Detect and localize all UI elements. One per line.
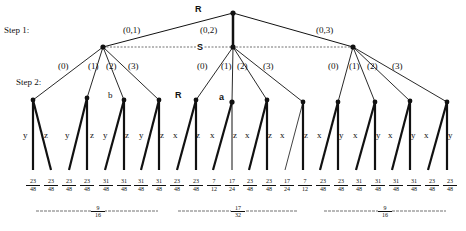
edge-label-mid-2: (2) (237, 62, 248, 71)
action-label: x (388, 131, 393, 140)
payoff-fraction: 1724 (280, 178, 294, 192)
action-label: z (90, 131, 94, 140)
action-label: x (280, 131, 285, 140)
root-label: R (195, 5, 202, 14)
edge-label-0-3: (0,3) (316, 26, 333, 35)
edge-label-right-2: (2) (367, 62, 378, 71)
step-1-label: Step 1: (4, 25, 29, 35)
group-value-right: 916 (378, 205, 392, 218)
payoff-fraction: 2348 (443, 178, 457, 192)
edge-label-mid-1: (1) (221, 62, 232, 71)
payoff-fraction: 712 (298, 178, 312, 192)
payoff-fraction: 2348 (334, 178, 348, 192)
edge-label-0-1: (0,1) (123, 26, 140, 35)
payoff-fraction: 3148 (99, 178, 113, 192)
edge-label-mid-0: (0) (197, 62, 208, 71)
action-label: z (160, 131, 164, 140)
edge-label-0-2: (0,2) (200, 26, 217, 35)
action-label: y (339, 131, 344, 140)
action-label: y (376, 131, 381, 140)
info-set-label: S (196, 43, 204, 52)
step-2-label: Step 2: (16, 77, 41, 87)
edge-label-left-1: (1) (88, 62, 99, 71)
payoff-fraction: 3148 (389, 178, 403, 192)
edge-label-left-3: (3) (128, 62, 139, 71)
action-label: z (268, 131, 272, 140)
payoff-fraction: 2348 (243, 178, 257, 192)
edge-label-left-2: (2) (106, 62, 117, 71)
payoff-fraction: 2348 (62, 178, 76, 192)
payoff-fraction: 3148 (352, 178, 366, 192)
group-value-left: 916 (91, 205, 105, 218)
payoff-fraction: 3148 (134, 178, 148, 192)
node-label-a: a (219, 93, 224, 102)
group-value-middle: 1732 (231, 205, 245, 218)
action-label: y (65, 131, 70, 140)
action-label: y (23, 131, 28, 140)
payoff-fraction: 2348 (44, 178, 58, 192)
payoff-fraction: 2348 (316, 178, 330, 192)
action-label: y (448, 131, 453, 140)
payoff-fraction: 2348 (80, 178, 94, 192)
payoff-fraction: 2348 (262, 178, 276, 192)
action-label: x (353, 131, 358, 140)
action-label: x (245, 131, 250, 140)
payoff-fraction: 1724 (225, 178, 239, 192)
game-tree-lines (0, 0, 466, 231)
edge-label-right-1: (1) (349, 62, 360, 71)
action-label: z (233, 131, 237, 140)
payoff-fraction: 2348 (425, 178, 439, 192)
payoff-fraction: 3148 (371, 178, 385, 192)
edge-label-mid-3: (3) (263, 62, 274, 71)
action-label: x (210, 131, 215, 140)
edge-label-right-3: (3) (392, 62, 403, 71)
action-label: x (173, 131, 178, 140)
action-label: x (317, 131, 322, 140)
node-label-R: R (175, 91, 182, 100)
payoff-fraction: 2348 (26, 178, 40, 192)
edge-label-left-0: (0) (58, 62, 69, 71)
action-label: z (125, 131, 129, 140)
action-label: z (304, 131, 308, 140)
payoff-fraction: 3148 (152, 178, 166, 192)
payoff-fraction: 2348 (170, 178, 184, 192)
payoff-fraction: 712 (207, 178, 221, 192)
edge-label-right-0: (0) (328, 62, 339, 71)
node-label-b: b (108, 91, 113, 100)
action-label: x (424, 131, 429, 140)
action-label: z (196, 131, 200, 140)
action-label: y (411, 131, 416, 140)
payoff-fraction: 3148 (117, 178, 131, 192)
action-label: z (44, 131, 48, 140)
payoff-fraction: 3148 (407, 178, 421, 192)
action-label: y (139, 131, 144, 140)
payoff-fraction: 2348 (189, 178, 203, 192)
action-label: y (103, 131, 108, 140)
